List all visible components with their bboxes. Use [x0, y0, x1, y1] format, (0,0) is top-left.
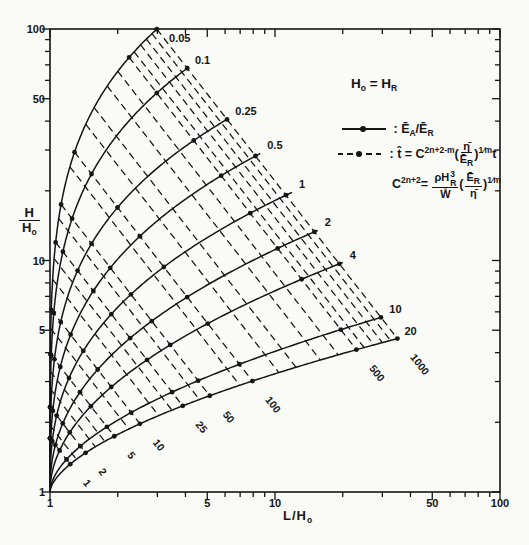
data-point-dot: [185, 295, 190, 300]
data-point-dot: [379, 315, 384, 320]
data-point-dot: [225, 117, 230, 122]
solid-curve-label: 4: [350, 249, 357, 261]
figure-page: { "figure": { "ink": "#151515", "bg": "#…: [0, 0, 529, 545]
data-point-dot: [49, 353, 54, 358]
data-point-dot: [161, 265, 166, 270]
data-point-dot: [248, 211, 253, 216]
data-point-dot: [109, 385, 114, 390]
data-point-dot: [219, 173, 224, 178]
data-point-dot: [109, 312, 114, 317]
dashed-line: [141, 45, 374, 345]
data-point-dot: [145, 358, 150, 363]
data-point-dot: [108, 265, 113, 270]
solid-curve-label: 0.25: [235, 105, 256, 117]
data-point-dot: [95, 367, 100, 372]
y-axis-title-numerator: H: [19, 206, 40, 220]
data-point-dot: [78, 444, 83, 449]
y-axis-title-denominator: Ho: [19, 220, 40, 237]
data-point-dot: [196, 378, 201, 383]
solid-curve-label: 1: [299, 178, 305, 190]
solid-curve: [50, 263, 343, 492]
data-point-dot: [51, 311, 56, 316]
x-axis-title: L/Ho: [283, 508, 313, 525]
dashed-line-label: 1: [81, 477, 94, 489]
data-point-dot: [237, 362, 242, 367]
solid-curve-label: 10: [389, 303, 401, 315]
rhoH3-over-W-fraction: ρH3RW̊: [432, 170, 458, 200]
x-tick-label: 1: [47, 497, 53, 509]
ER-over-eta-fraction: ĒRη̄: [465, 171, 482, 199]
x-tick-label: 50: [426, 497, 438, 509]
data-point-dot: [115, 205, 120, 210]
dashed-line-label: 25: [194, 419, 211, 436]
dashed-line: [94, 108, 296, 368]
x-tick-label: 10: [269, 497, 281, 509]
data-point-dot: [50, 439, 55, 444]
data-point-dot: [354, 347, 359, 352]
solid-line-marker-icon: [342, 128, 386, 130]
solid-curve-label: 0.05: [169, 32, 190, 44]
solid-curve-label: 0.5: [267, 139, 282, 151]
data-point-dot: [137, 234, 142, 239]
data-point-dot: [57, 448, 62, 453]
data-point-dot: [112, 434, 117, 439]
dashed-line: [51, 329, 129, 429]
data-point-dot: [337, 261, 342, 266]
data-point-dot: [72, 150, 77, 155]
dashed-line-label: 500: [367, 362, 387, 383]
x-tick-label: 5: [204, 497, 210, 509]
data-point-dot: [75, 268, 80, 273]
data-point-dot: [128, 336, 133, 341]
data-point-dot: [83, 450, 88, 455]
data-point-dot: [191, 138, 196, 143]
data-point-dot: [299, 277, 304, 282]
dashed-line: [53, 279, 159, 415]
data-point-dot: [88, 404, 93, 409]
data-point-dot: [154, 27, 159, 32]
dashed-line: [146, 39, 382, 343]
data-point-dot: [253, 154, 258, 159]
data-point-dot: [338, 327, 343, 332]
legend-row-solid: : ĒA/ĒR: [342, 122, 434, 138]
data-point-dot: [129, 292, 134, 297]
data-point-dot: [53, 240, 58, 245]
solid-curve-label: 2: [325, 216, 331, 228]
solid-curve: [50, 317, 382, 492]
y-tick-label: 1: [39, 486, 45, 498]
dashed-line-label: 1000: [408, 351, 432, 377]
dashed-line: [61, 204, 210, 395]
data-point-dot: [138, 421, 143, 426]
data-point-dot: [50, 408, 55, 413]
dashed-line: [86, 124, 279, 372]
data-point-dot: [58, 320, 63, 325]
plot-canvas: 1510501001510501000.050.10.250.512410201…: [0, 0, 529, 545]
data-point-dot: [67, 430, 72, 435]
y-tick-label: 10: [33, 255, 45, 267]
dashed-line: [70, 167, 240, 385]
data-point-dot: [67, 376, 72, 381]
solid-curve: [50, 230, 318, 492]
dashed-line-marker-icon: [338, 153, 382, 155]
eta-over-ER-fraction: η̄ĒR: [460, 140, 473, 168]
data-point-dot: [207, 393, 212, 398]
data-point-dot: [168, 343, 173, 348]
data-point-dot: [312, 229, 317, 234]
dot-marker-icon: [360, 126, 366, 132]
data-point-dot: [70, 216, 75, 221]
legend-identity: Ho = HR: [351, 76, 397, 93]
data-point-dot: [105, 424, 110, 429]
data-point-dot: [81, 349, 86, 354]
data-point-dot: [185, 66, 190, 71]
data-point-dot: [284, 193, 289, 198]
dashed-line-label: 10: [151, 437, 168, 454]
data-point-dot: [58, 364, 63, 369]
dashed-line-label: 5: [125, 449, 138, 461]
figure-stage: 1510501001510501000.050.10.250.512410201…: [0, 0, 529, 545]
x-tick-label: 100: [491, 497, 509, 509]
data-point-dot: [91, 289, 96, 294]
solid-curve-label: 0.1: [195, 54, 210, 66]
dashed-line-label: 50: [221, 408, 238, 425]
data-point-dot: [129, 410, 134, 415]
data-point-dot: [52, 357, 57, 362]
data-point-dot: [54, 413, 59, 418]
